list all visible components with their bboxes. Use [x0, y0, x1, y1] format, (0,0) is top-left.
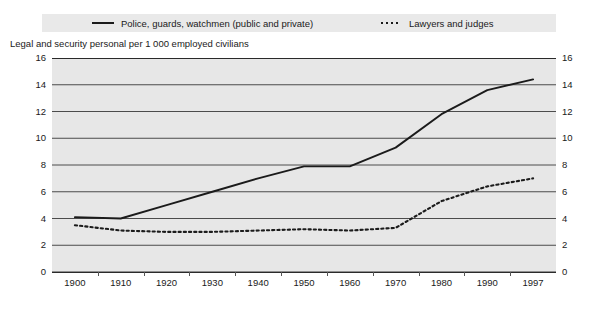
series-line-1: [75, 178, 533, 232]
dotted-line-icon: [380, 18, 402, 28]
x-tick-mark: [464, 272, 465, 276]
x-tick-mark: [144, 272, 145, 276]
y-tick-label-right: 6: [562, 187, 582, 197]
legend-label-police: Police, guards, watchmen (public and pri…: [121, 18, 313, 29]
series-line-0: [75, 79, 533, 218]
y-tick-label-right: 2: [562, 240, 582, 250]
y-tick-label-right: 0: [562, 267, 582, 277]
y-tick-label-right: 16: [562, 53, 582, 63]
solid-line-icon: [92, 18, 114, 28]
x-tick-label: 1950: [284, 278, 324, 288]
x-axis-line: [52, 272, 556, 273]
y-tick-label-right: 12: [562, 107, 582, 117]
plot-top-border: [52, 58, 556, 59]
x-tick-mark: [98, 272, 99, 276]
y-tick-label-left: 0: [26, 267, 46, 277]
x-tick-label: 1900: [55, 278, 95, 288]
y-tick-label-right: 4: [562, 214, 582, 224]
x-tick-mark: [510, 272, 511, 276]
y-tick-label-left: 12: [26, 107, 46, 117]
x-tick-label: 1960: [330, 278, 370, 288]
series-paths: [75, 79, 533, 231]
legend-entry-police: Police, guards, watchmen (public and pri…: [92, 14, 313, 32]
x-tick-label: 1980: [421, 278, 461, 288]
gridlines: [52, 58, 556, 272]
y-tick-label-left: 6: [26, 187, 46, 197]
x-tick-label: 1990: [467, 278, 507, 288]
plot-svg: [52, 58, 556, 272]
chart-figure: Police, guards, watchmen (public and pri…: [0, 0, 598, 311]
x-tick-mark: [235, 272, 236, 276]
x-tick-mark: [373, 272, 374, 276]
legend-label-lawyers: Lawyers and judges: [409, 18, 494, 29]
x-tick-label: 1930: [192, 278, 232, 288]
x-tick-mark: [189, 272, 190, 276]
x-tick-label: 1970: [376, 278, 416, 288]
y-tick-label-left: 14: [26, 80, 46, 90]
plot-area: [52, 58, 556, 272]
y-tick-label-left: 4: [26, 214, 46, 224]
y-tick-label-left: 16: [26, 53, 46, 63]
x-tick-label: 1910: [101, 278, 141, 288]
y-tick-label-left: 10: [26, 133, 46, 143]
y-tick-label-right: 10: [562, 133, 582, 143]
y-axis-title: Legal and security personal per 1 000 em…: [10, 38, 249, 49]
y-tick-label-right: 8: [562, 160, 582, 170]
y-tick-label-right: 14: [562, 80, 582, 90]
legend-entry-lawyers: Lawyers and judges: [380, 14, 494, 32]
chart-legend: Police, guards, watchmen (public and pri…: [42, 14, 556, 32]
x-tick-label: 1997: [513, 278, 553, 288]
x-tick-mark: [327, 272, 328, 276]
x-tick-label: 1920: [147, 278, 187, 288]
x-tick-label: 1940: [238, 278, 278, 288]
y-tick-label-left: 8: [26, 160, 46, 170]
y-tick-label-left: 2: [26, 240, 46, 250]
x-tick-mark: [419, 272, 420, 276]
x-tick-mark: [281, 272, 282, 276]
